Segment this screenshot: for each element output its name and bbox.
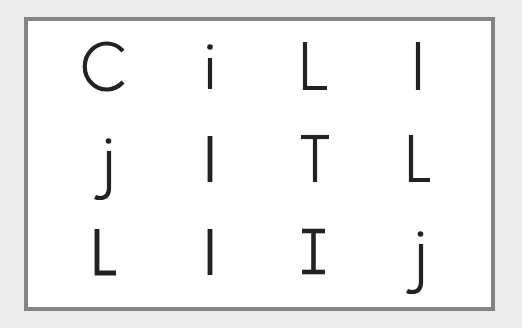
cell-r3c3 — [302, 231, 325, 272]
letter-grid — [0, 0, 522, 328]
cell-r1c1 — [85, 44, 123, 90]
cell-r1c2 — [207, 44, 213, 89]
cell-r3c1 — [97, 229, 116, 273]
cell-r2c1 — [95, 138, 111, 198]
cell-r2c3 — [301, 137, 329, 182]
cell-r3c4 — [407, 231, 423, 292]
cell-r1c3 — [305, 42, 327, 88]
cell-r2c4 — [411, 135, 430, 180]
